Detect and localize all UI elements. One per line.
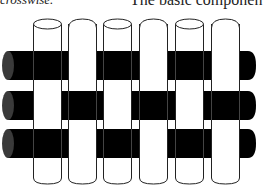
plain-weave-diagram	[0, 0, 263, 194]
